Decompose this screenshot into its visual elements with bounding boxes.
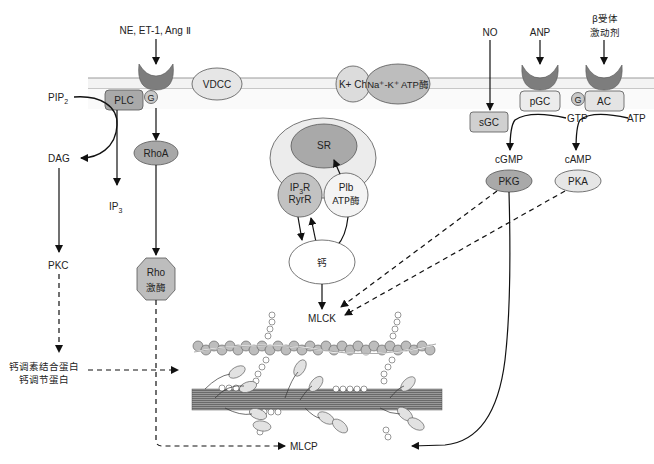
- na-k-atpase: Na⁺-K⁺ ATP酶: [366, 64, 430, 104]
- sr-complex: SR IP3R RyrR Plb ATP酶 钙 MLCK: [270, 118, 376, 324]
- rho-kinase-label-2: 激酶: [146, 282, 166, 293]
- calcium-label: 钙: [317, 257, 327, 268]
- no-label: NO: [483, 27, 498, 38]
- plb-label: Plb: [339, 182, 354, 193]
- agonist-label-ne-et1-angii: NE, ET-1, Ang Ⅱ: [119, 25, 190, 36]
- vdcc-label: VDCC: [203, 79, 231, 90]
- cgmp-label: cGMP: [495, 154, 523, 165]
- myofilament-illustration: [192, 312, 442, 440]
- pip2-label: PIP2: [48, 92, 68, 105]
- pkc-label: PKC: [48, 260, 69, 271]
- ip3-label: IP3: [109, 201, 122, 214]
- beta-agonist-label-2: 激动剂: [590, 27, 620, 38]
- sr-label: SR: [317, 140, 331, 151]
- beta-agonist-label-1: β受体: [592, 13, 618, 24]
- receptor-icon: [139, 64, 174, 90]
- calponin-label: 钙调素结合蛋白: [9, 361, 79, 372]
- ac-label: AC: [597, 96, 611, 107]
- pgc-label: pGC: [530, 96, 551, 107]
- g-protein-left: G: [145, 91, 158, 104]
- vdcc-channel: VDCC: [192, 68, 242, 100]
- ryrr-label: RyrR: [289, 194, 312, 205]
- rho-kinase-label-1: Rho: [147, 267, 166, 278]
- rhoa-label: RhoA: [143, 148, 168, 159]
- k-channel-label: K+ Ch: [339, 79, 367, 90]
- pip2-dag-pathway: PIP2 DAG IP3 PKC: [48, 92, 122, 352]
- k-channel: K+ Ch: [336, 66, 370, 102]
- anp-pathway: ANP pGC GTP cGMP PKG: [486, 27, 588, 192]
- anp-label: ANP: [530, 27, 551, 38]
- mlcp-label: MLCP: [290, 441, 318, 452]
- na-k-atpase-label: Na⁺-K⁺ ATP酶: [367, 79, 429, 90]
- calponin-caldesmon: 钙调素结合蛋白 钙调节蛋白: [9, 361, 178, 385]
- gtp-label: GTP: [567, 113, 588, 124]
- plb-atpase-label: ATP酶: [332, 195, 359, 206]
- plc-label: PLC: [114, 95, 133, 106]
- rho-kinase-node: [137, 258, 175, 300]
- pathway-diagram: NE, ET-1, Ang Ⅱ PLC G VDCC K+ Ch Na⁺-K⁺ …: [0, 0, 654, 464]
- pkg-label: PKG: [498, 176, 519, 187]
- camp-label: cAMP: [565, 154, 592, 165]
- g-label-left: G: [147, 93, 154, 103]
- atp-label: ATP: [627, 113, 646, 124]
- diagram-canvas: NE, ET-1, Ang Ⅱ PLC G VDCC K+ Ch Na⁺-K⁺ …: [0, 0, 654, 464]
- g-label-right: G: [574, 95, 581, 105]
- pka-label: PKA: [568, 176, 588, 187]
- dag-label: DAG: [48, 153, 70, 164]
- sgc-label: sGC: [479, 117, 499, 128]
- caldesmon-label: 钙调节蛋白: [19, 374, 69, 385]
- mlck-label: MLCK: [308, 313, 336, 324]
